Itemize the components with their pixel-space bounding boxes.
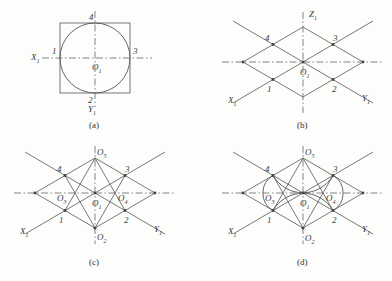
panel-c-point-4-label: 4	[57, 164, 62, 174]
panel-d-x-axis-label: X1	[227, 226, 237, 238]
panel-d-point-3-dot	[332, 174, 335, 177]
panel-b-z-axis-label: Z1	[309, 9, 317, 21]
panel-b: Z1 X1 Y1 4 3 1 2 O1 (b)	[222, 9, 384, 130]
panel-d-o4-label: O4	[326, 193, 336, 205]
panel-b-point-1-dot	[272, 78, 275, 81]
panel-d-point-4-label: 4	[265, 164, 270, 174]
panel-d-y-axis-label: Y1	[362, 224, 370, 236]
panel-c-o2-point	[93, 226, 96, 229]
panel-c-point-1-dot	[64, 209, 67, 212]
panel-d-right-vertex-point	[362, 192, 365, 195]
panel-a-caption: (a)	[89, 120, 99, 130]
panel-b-left-vertex-point	[242, 61, 245, 64]
panel-c-center-label: O1	[92, 198, 102, 210]
panel-c-center-point	[94, 192, 97, 195]
technical-drawing: .thin { stroke:#555555; stroke-width:0.8…	[0, 0, 392, 281]
panel-c-point-4-dot	[64, 174, 67, 177]
panel-b-point-4-label: 4	[265, 33, 270, 43]
panel-d-caption: (d)	[297, 257, 308, 267]
panel-c-o3-label: O3	[57, 193, 67, 205]
panel-d-left-vertex-point	[242, 192, 245, 195]
panel-d-construction-o2-to-4	[273, 176, 303, 229]
panel-b-caption: (b)	[297, 120, 308, 130]
panel-d-point-2-label: 2	[332, 215, 337, 225]
panel-b-x-axis-label: X1	[227, 95, 237, 107]
panel-c-o4-label: O4	[118, 193, 128, 205]
panel-b-y-axis-label: Y1	[362, 93, 370, 105]
panel-d-o2-label: O2	[305, 233, 315, 245]
panel-b-center-label: O1	[300, 67, 310, 79]
panel-a-point-2-label: 2	[88, 95, 93, 105]
panel-c-point-2-dot	[124, 209, 127, 212]
panel-c: O5 O2 O3 O4 O1 X1 Y1 4 3 1 2 (c)	[14, 146, 176, 267]
panel-a-point-1-label: 1	[52, 46, 57, 56]
panel-d: O5 O2 O3 O4 O1 X1 Y1 4 3 1 2 (d)	[222, 146, 384, 267]
panel-a: X1 Y1 1 2 3 4 O1 (a)	[30, 11, 152, 130]
panel-c-o2-label: O2	[97, 232, 107, 244]
panel-b-center-point	[302, 61, 305, 64]
panel-c-construction-o2-to-4	[65, 176, 95, 229]
panel-d-o2-point	[301, 226, 304, 229]
panel-d-point-1-dot	[272, 209, 275, 212]
panel-b-point-2-dot	[332, 78, 335, 81]
panel-d-o5-label: O5	[305, 147, 315, 159]
panel-b-point-3-label: 3	[332, 33, 338, 43]
panel-d-center-point	[302, 192, 305, 195]
panel-b-point-4-dot	[272, 43, 275, 46]
panel-d-point-2-dot	[332, 209, 335, 212]
panel-d-construction-o5-to-1	[273, 158, 303, 211]
panel-c-caption: (c)	[89, 257, 99, 267]
panel-a-point-4-label: 4	[89, 12, 94, 22]
panel-d-o3-label: O3	[265, 193, 275, 205]
panel-c-left-vertex-point	[34, 192, 37, 195]
panel-d-point-1-label: 1	[267, 215, 272, 225]
panel-d-point-3-label: 3	[332, 164, 338, 174]
panel-b-point-2-label: 2	[332, 84, 337, 94]
panel-a-x-axis-label: X1	[30, 52, 40, 64]
panel-d-point-4-dot	[272, 174, 275, 177]
panel-c-o5-label: O5	[97, 147, 107, 159]
figure-container: .thin { stroke:#555555; stroke-width:0.8…	[0, 0, 392, 281]
panel-c-right-vertex-point	[154, 192, 157, 195]
panel-c-construction-o5-to-1	[65, 158, 95, 211]
panel-d-center-label: O1	[300, 198, 310, 210]
panel-c-point-3-dot	[124, 174, 127, 177]
panel-c-point-2-label: 2	[124, 215, 129, 225]
panel-b-right-vertex-point	[362, 61, 365, 64]
panel-a-center-label: O1	[92, 62, 102, 74]
panel-b-point-1-label: 1	[267, 84, 272, 94]
panel-b-point-3-dot	[332, 43, 335, 46]
panel-c-y-axis-label: Y1	[154, 224, 162, 236]
panel-a-point-3-label: 3	[132, 46, 138, 56]
panel-c-point-3-label: 3	[124, 164, 130, 174]
panel-c-x-axis-label: X1	[19, 226, 29, 238]
panel-c-point-1-label: 1	[59, 215, 64, 225]
